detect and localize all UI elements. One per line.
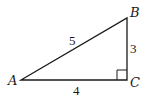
- right-angle-marker: [117, 70, 127, 80]
- side-label-ac: 4: [73, 83, 80, 98]
- side-label-ab: 5: [69, 33, 76, 48]
- vertex-label-a: A: [7, 73, 17, 88]
- triangle-abc: [21, 18, 127, 80]
- side-label-bc: 3: [130, 41, 137, 56]
- vertex-label-c: C: [130, 75, 140, 90]
- triangle-diagram: A B C 5 3 4: [0, 0, 145, 98]
- vertex-label-b: B: [129, 5, 140, 20]
